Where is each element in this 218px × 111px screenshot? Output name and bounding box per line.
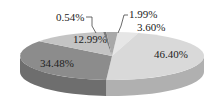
label-360: 3.60% <box>137 21 165 33</box>
label-199: 1.99% <box>129 8 157 20</box>
label-34: 34.48% <box>40 57 74 69</box>
label-054: 0.54% <box>56 11 84 23</box>
pie-chart: 46.40% 34.48% 12.99% 0.54% 1.99% 3.60% <box>0 0 218 111</box>
label-12: 12.99% <box>73 33 107 45</box>
leader-lines <box>86 15 128 33</box>
label-46: 46.40% <box>154 48 188 60</box>
